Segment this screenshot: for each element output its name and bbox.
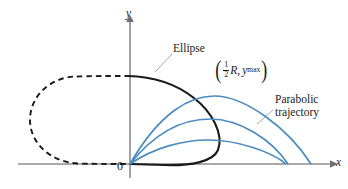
y-axis-label: y xyxy=(126,7,131,20)
y-axis xyxy=(126,15,134,178)
parabolic-trajectory-label: Parabolic trajectory xyxy=(275,93,319,119)
origin-label: 0 xyxy=(117,160,123,173)
fraction-denominator: 2 xyxy=(223,71,229,79)
ellipse-dashed-arc xyxy=(30,76,130,164)
coordinate-close-paren: ) xyxy=(261,60,267,81)
apex-coordinate-label: ( 1 2 R , y max ) xyxy=(214,60,269,81)
y-max-subscript: max xyxy=(247,66,260,74)
trajectory-mid xyxy=(130,119,288,164)
parabolic-label-line2: trajectory xyxy=(275,106,319,119)
one-half-fraction: 1 2 xyxy=(223,61,229,79)
coordinate-open-paren: ( xyxy=(215,60,221,81)
ellipse-label: Ellipse xyxy=(173,42,205,55)
figure-canvas: Ellipse ( 1 2 R , y max ) Parabolic traj… xyxy=(0,0,348,189)
coordinate-comma: , xyxy=(237,64,240,77)
x-axis-label: x xyxy=(336,156,341,169)
ellipse-leader-line xyxy=(155,54,172,72)
range-symbol-R: R xyxy=(230,64,237,77)
coordinate-body: 1 2 R , y max xyxy=(222,61,260,79)
parabolic-label-line1: Parabolic xyxy=(275,93,319,106)
fraction-numerator: 1 xyxy=(223,61,229,69)
